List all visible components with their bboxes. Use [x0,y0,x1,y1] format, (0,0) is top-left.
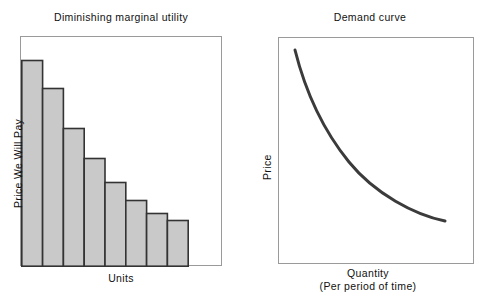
panel-diminishing-marginal-utility: Diminishing marginal utility [0,0,244,300]
demand-curve-svg [279,38,475,265]
panel-title-demand-curve: Demand curve [248,11,488,24]
x-axis-label-units: Units [0,272,242,285]
bar-chart-svg [21,37,223,267]
x-axis-label-quantity-sub: (Per period of time) [244,280,488,293]
y-axis-label-price: Price [261,154,274,180]
y-axis-label-price-we-will-pay: Price We Will Pay [12,119,25,208]
bar-7 [147,214,168,267]
bar-4 [84,159,105,267]
two-panel-economics-figure: Diminishing marginal utility [0,0,488,300]
panel-title-diminishing-marginal-utility: Diminishing marginal utility [0,11,243,24]
panel-demand-curve: Demand curve Price Quantity (Per period … [244,0,488,300]
plot-area-demand-curve [278,37,474,264]
bar-8 [167,221,188,267]
bar-2 [43,89,64,267]
demand-curve-line [295,50,445,221]
bar-3 [63,129,84,267]
x-axis-label-quantity: Quantity [347,267,389,279]
x-axis-label-quantity-block: Quantity (Per period of time) [244,267,488,293]
bar-5 [105,183,126,267]
bar-6 [126,201,147,267]
plot-area-bar-chart [20,36,222,266]
